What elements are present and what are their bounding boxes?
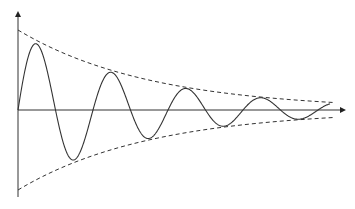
lower-envelope-curve (18, 117, 335, 190)
damped-sine-curve (18, 44, 330, 160)
upper-envelope-curve (18, 30, 335, 103)
damped-oscillation-plot (0, 0, 355, 209)
